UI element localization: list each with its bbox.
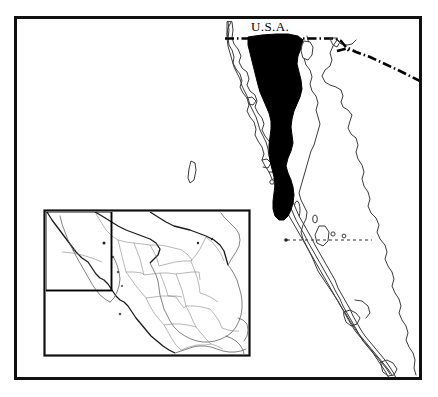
- gulf-island-tiburon: [315, 226, 329, 246]
- mainland-coastline: [322, 40, 416, 375]
- map-svg: U.S.A.: [0, 0, 438, 397]
- pacific-islet-2: [270, 180, 274, 184]
- inset-islet-1: [73, 249, 76, 252]
- inset-gulf-dot-1: [197, 242, 199, 244]
- range-enclave-laguna-salada: [301, 41, 313, 60]
- international-border-east: [337, 48, 422, 82]
- distribution-map-figure: U.S.A.: [0, 0, 438, 397]
- inset-islet-4: [117, 271, 119, 273]
- locator-inset: [45, 211, 250, 356]
- gulf-island-small-1: [313, 215, 318, 223]
- gulf-island-small-3: [342, 234, 346, 238]
- baja-pacific-coast: [228, 22, 390, 374]
- inset-frame: [45, 211, 250, 356]
- inset-islet-5: [121, 285, 123, 287]
- isla-guadalupe: [188, 161, 196, 183]
- inset-islet-6: [119, 313, 122, 316]
- gulf-island-small-2: [331, 232, 335, 236]
- usa-label: U.S.A.: [251, 19, 289, 34]
- shaded-range-area: [248, 34, 303, 220]
- state-boundary-west-endpoint: [284, 238, 288, 242]
- inset-islet-2: [103, 242, 106, 245]
- baja-gulf-coast: [299, 36, 392, 375]
- inset-gulf-dot-2: [211, 238, 213, 240]
